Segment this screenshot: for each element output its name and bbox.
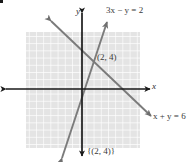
y-axis-label: y bbox=[76, 7, 80, 16]
solution-set-label: {(2, 4)} bbox=[87, 147, 115, 156]
graph-canvas bbox=[0, 0, 196, 162]
line-equation-label-2: x + y = 6 bbox=[153, 112, 186, 121]
x-axis-label: x bbox=[152, 82, 156, 91]
intersection-point-label: (2, 4) bbox=[97, 53, 117, 62]
coordinate-graph-figure: 3x − y = 2 x + y = 6 (2, 4) {(2, 4)} x y bbox=[0, 0, 196, 162]
line-equation-label-1: 3x − y = 2 bbox=[106, 6, 143, 15]
